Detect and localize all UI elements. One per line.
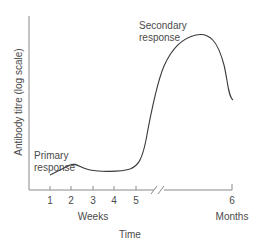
x-ticks bbox=[50, 184, 232, 190]
axis-break-mark bbox=[158, 186, 164, 194]
secondary-response-label: Secondary bbox=[139, 20, 187, 31]
primary-response-label: response bbox=[34, 162, 76, 173]
secondary-response-label: response bbox=[139, 32, 181, 43]
x-tick-label: 1 bbox=[47, 195, 53, 206]
antibody-curve bbox=[50, 34, 233, 175]
weeks-label: Weeks bbox=[78, 211, 108, 222]
x-tick-label: 4 bbox=[111, 195, 117, 206]
x-tick-label: 6 bbox=[229, 195, 235, 206]
primary-response-label: Primary bbox=[34, 150, 68, 161]
y-axis-title: Antibody titre (log scale) bbox=[13, 48, 24, 155]
x-tick-label: 3 bbox=[90, 195, 96, 206]
x-tick-label: 2 bbox=[68, 195, 74, 206]
x-tick-label: 5 bbox=[133, 195, 139, 206]
months-label: Months bbox=[216, 211, 249, 222]
x-axis-title: Time bbox=[119, 229, 141, 240]
antibody-response-chart: 1 2 3 4 5 6 Weeks Months Time Antibody t… bbox=[0, 0, 268, 250]
